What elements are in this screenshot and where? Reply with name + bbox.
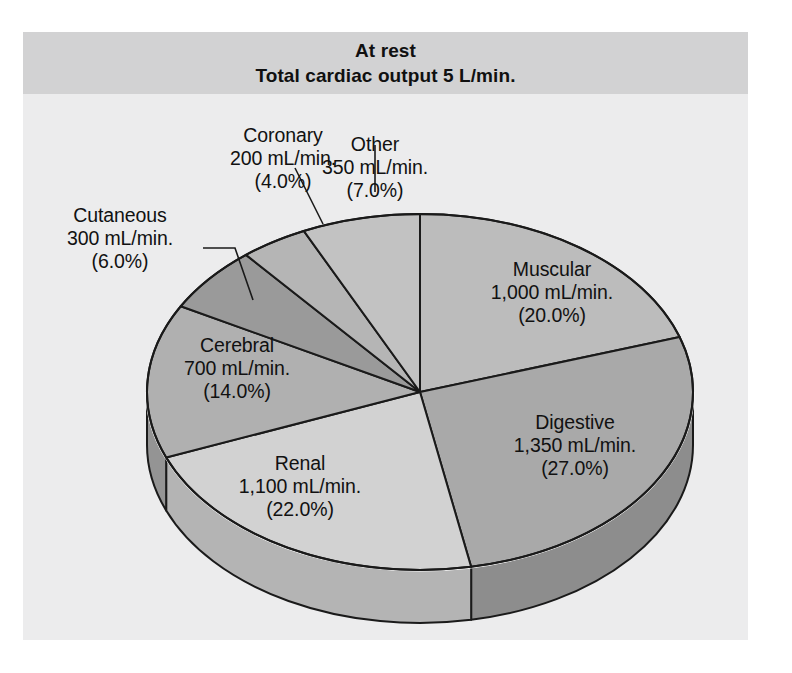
slice-label-digestive-name: Digestive xyxy=(514,411,636,434)
slice-label-muscular: Muscular 1,000 mL/min. (20.0%) xyxy=(491,258,613,327)
callout-label-coronary-value: 200 mL/min. xyxy=(230,147,336,170)
callout-label-coronary: Coronary 200 mL/min. (4.0%) xyxy=(230,124,336,193)
callout-label-cutaneous-value: 300 mL/min. xyxy=(67,227,173,250)
slice-label-cerebral-name: Cerebral xyxy=(184,334,290,357)
slice-label-muscular-name: Muscular xyxy=(491,258,613,281)
callout-label-cutaneous-name: Cutaneous xyxy=(67,204,173,227)
slice-label-renal: Renal 1,100 mL/min. (22.0%) xyxy=(239,452,361,521)
callout-label-other-name: Other xyxy=(322,133,428,156)
callout-label-other-value: 350 mL/min. xyxy=(322,156,428,179)
slice-label-muscular-value: 1,000 mL/min. xyxy=(491,281,613,304)
slice-label-muscular-percent: (20.0%) xyxy=(491,304,613,327)
slice-label-cerebral-percent: (14.0%) xyxy=(184,380,290,403)
slice-label-digestive: Digestive 1,350 mL/min. (27.0%) xyxy=(514,411,636,480)
callout-label-coronary-percent: (4.0%) xyxy=(230,170,336,193)
slice-label-cerebral-value: 700 mL/min. xyxy=(184,357,290,380)
slice-label-cerebral: Cerebral 700 mL/min. (14.0%) xyxy=(184,334,290,403)
callout-label-coronary-name: Coronary xyxy=(230,124,336,147)
slice-label-digestive-value: 1,350 mL/min. xyxy=(514,434,636,457)
slice-label-renal-value: 1,100 mL/min. xyxy=(239,475,361,498)
callout-label-cutaneous: Cutaneous 300 mL/min. (6.0%) xyxy=(67,204,173,273)
slice-label-renal-percent: (22.0%) xyxy=(239,498,361,521)
slice-label-renal-name: Renal xyxy=(239,452,361,475)
slice-label-digestive-percent: (27.0%) xyxy=(514,457,636,480)
figure-root: At rest Total cardiac output 5 L/min. Co… xyxy=(0,0,792,673)
callout-label-other: Other 350 mL/min. (7.0%) xyxy=(322,133,428,202)
callout-label-other-percent: (7.0%) xyxy=(322,179,428,202)
callout-label-cutaneous-percent: (6.0%) xyxy=(67,250,173,273)
pie-chart-graphic xyxy=(23,32,748,640)
